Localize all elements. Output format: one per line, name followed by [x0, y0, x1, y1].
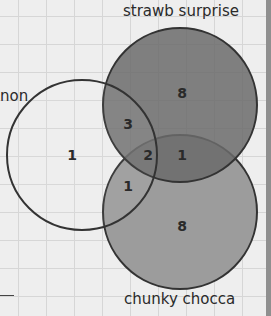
lemon-label: non — [0, 87, 28, 105]
lemon-chocca-value: 1 — [123, 178, 133, 194]
page-edge — [266, 0, 271, 316]
divider-line — [0, 295, 14, 296]
all-three-value: 2 — [143, 147, 153, 163]
lemon-only-value: 1 — [67, 147, 77, 163]
lemon-strawb-value: 3 — [123, 116, 133, 132]
chocca-only-value: 8 — [177, 218, 187, 234]
strawb-only-value: 8 — [177, 85, 187, 101]
venn-diagram: 8 3 1 2 1 1 8 strawb surprise non chunky… — [0, 0, 271, 316]
lemon-circle — [7, 80, 157, 230]
chunky-chocca-label: chunky chocca — [124, 290, 235, 308]
strawb-surprise-label: strawb surprise — [123, 2, 239, 20]
strawb-chocca-value: 1 — [177, 147, 187, 163]
venn-svg: 8 3 1 2 1 1 8 — [0, 0, 271, 316]
